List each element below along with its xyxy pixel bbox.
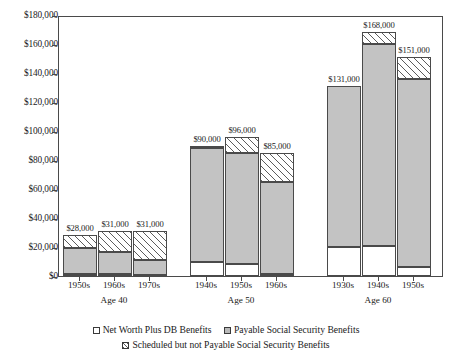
bar-segment-scheduled-not-payable-ss [225,137,259,153]
bar-segment-payable-ss [190,148,224,261]
legend-row-2: Scheduled but not Payable Social Securit… [0,337,452,352]
y-axis-tick-label: $80,000 [2,156,58,165]
chart-root: $0$20,000$40,000$60,000$80,000$100,000$1… [0,0,452,364]
y-axis-tick-label: $40,000 [2,214,58,223]
bar-segment-net-worth-db [63,274,97,276]
y-axis-tick-label: $120,000 [2,98,58,107]
bar-segment-payable-ss [225,153,259,265]
bar-value-label: $31,000 [101,220,128,229]
x-axis-tick-mark [413,277,414,281]
y-axis-tick-mark [52,16,57,17]
bar-segment-payable-ss [63,248,97,274]
legend-item-net-worth-plus-db-benefits: Net Worth Plus DB Benefits [93,322,212,337]
bar-segment-payable-ss [327,86,361,247]
bar-segment-payable-ss [260,182,294,273]
bar-segment-net-worth-db [327,247,361,276]
x-axis-tick-label: 1970s [127,280,171,290]
bar-age-60-1940s[interactable]: $168,000 [362,32,396,276]
y-axis-tick-mark [52,190,57,191]
legend-swatch-gray-icon [224,327,231,334]
bar-segment-payable-ss [98,252,132,274]
legend-swatch-open-icon [93,327,100,334]
bar-value-label: $151,000 [398,46,429,55]
x-axis-tick-mark [206,277,207,281]
bar-age-40-1950s[interactable]: $28,000 [63,235,97,276]
bar-value-label: $31,000 [136,220,163,229]
x-axis-tick-mark [114,277,115,281]
y-axis-tick-label: $100,000 [2,127,58,136]
x-axis: 1950s1960s1970s1940s1950s1960s1930s1940s… [58,277,443,317]
legend-row-1: Net Worth Plus DB Benefits Payable Socia… [0,322,452,337]
bar-segment-scheduled-not-payable-ss [362,32,396,44]
x-axis-tick-mark [149,277,150,281]
bar-segment-net-worth-db [190,262,224,277]
legend-item-scheduled-but-not-payable-social-security-benefits: Scheduled but not Payable Social Securit… [122,337,329,352]
bar-value-label: $90,000 [193,135,220,144]
y-axis-tick-label: $60,000 [2,185,58,194]
y-axis-tick-label: $160,000 [2,40,58,49]
bar-value-label: $96,000 [228,126,255,135]
legend-item-payable-social-security-benefits: Payable Social Security Benefits [224,322,360,337]
bar-segment-scheduled-not-payable-ss [397,57,431,79]
bar-age-60-1950s[interactable]: $151,000 [397,57,431,276]
x-axis-group-label: Age 60 [343,295,413,305]
bar-segment-payable-ss [397,79,431,268]
bar-value-label: $131,000 [328,75,359,84]
y-axis-tick-mark [52,45,57,46]
x-axis-tick-mark [343,277,344,281]
x-axis-tick-mark [276,277,277,281]
x-axis-tick-mark [241,277,242,281]
bar-value-label: $168,000 [363,21,394,30]
y-axis-tick-label: $140,000 [2,69,58,78]
bar-value-label: $28,000 [66,224,93,233]
y-axis-tick-mark [52,74,57,75]
legend-label-scheduled-but-not-payable-social-security-benefits: Scheduled but not Payable Social Securit… [132,339,329,350]
bar-segment-scheduled-not-payable-ss [260,153,294,183]
y-axis-tick-label: $0 [2,272,58,281]
chart-legend: Net Worth Plus DB Benefits Payable Socia… [0,322,452,352]
plot-area: $28,000$31,000$31,000$90,000$96,000$85,0… [58,16,443,277]
x-axis-group-label: Age 50 [206,295,276,305]
bar-age-60-1930s[interactable]: $131,000 [327,86,361,276]
legend-label-payable-social-security-benefits: Payable Social Security Benefits [234,324,360,335]
bar-segment-net-worth-db [397,267,431,276]
bar-age-50-1940s[interactable]: $90,000 [190,146,224,277]
bar-age-40-1960s[interactable]: $31,000 [98,231,132,276]
bar-age-40-1970s[interactable]: $31,000 [133,231,167,276]
y-axis-tick-label: $180,000 [2,11,58,20]
legend-swatch-hatched-icon [122,342,129,349]
y-axis-tick-label: $20,000 [2,243,58,252]
x-axis-tick-mark [79,277,80,281]
bar-segment-payable-ss [133,260,167,275]
bar-segment-net-worth-db [362,246,396,276]
bar-value-label: $85,000 [263,142,290,151]
bar-segment-scheduled-not-payable-ss [98,231,132,252]
bar-segment-net-worth-db [225,264,259,276]
bar-segment-net-worth-db [260,274,294,276]
x-axis-tick-mark [378,277,379,281]
bar-segment-net-worth-db [98,274,132,276]
x-axis-tick-label: 1950s [391,280,435,290]
y-axis-tick-mark [52,248,57,249]
x-axis-tick-label: 1960s [254,280,298,290]
bar-segment-scheduled-not-payable-ss [133,231,167,260]
y-axis-tick-mark [52,103,57,104]
legend-label-net-worth-plus-db-benefits: Net Worth Plus DB Benefits [103,324,212,335]
y-axis-tick-mark [52,161,57,162]
bar-age-50-1960s[interactable]: $85,000 [260,153,294,276]
bar-segment-payable-ss [362,44,396,246]
bar-segment-scheduled-not-payable-ss [63,235,97,247]
x-axis-group-label: Age 40 [79,295,149,305]
y-axis-tick-mark [52,277,57,278]
bar-age-50-1950s[interactable]: $96,000 [225,137,259,276]
y-axis: $0$20,000$40,000$60,000$80,000$100,000$1… [0,16,58,277]
bar-segment-scheduled-not-payable-ss [190,146,224,149]
y-axis-tick-mark [52,132,57,133]
y-axis-tick-mark [52,219,57,220]
